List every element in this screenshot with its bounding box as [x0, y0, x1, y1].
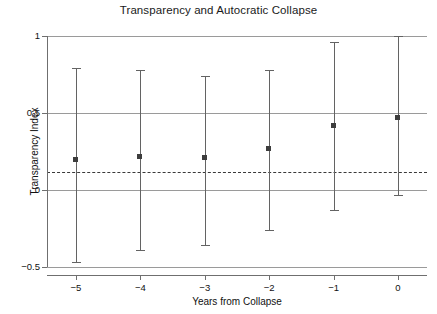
- errorbar-cap-lower: [330, 210, 339, 211]
- y-axis-tick-label: 0.5: [0, 107, 40, 119]
- y-axis-tick-mark: [42, 36, 47, 37]
- gridline-y: [47, 36, 427, 37]
- y-axis-tick-label: −0.5: [0, 261, 40, 273]
- data-point-marker: [266, 146, 271, 151]
- chart-title: Transparency and Autocratic Collapse: [0, 4, 437, 16]
- gridline-y: [47, 190, 427, 191]
- data-point-marker: [137, 154, 142, 159]
- x-axis-tick-mark: [76, 275, 77, 280]
- x-axis-tick-mark: [334, 275, 335, 280]
- errorbar-group: [67, 36, 85, 267]
- x-axis-tick-label: −3: [185, 282, 225, 293]
- errorbar-cap-upper: [201, 76, 210, 77]
- errorbar-cap-lower: [394, 195, 403, 196]
- y-axis-tick-label-text: −0.5: [2, 261, 40, 272]
- errorbar-group: [196, 36, 214, 267]
- errorbar-cap-upper: [265, 70, 274, 71]
- x-axis-tick-label: −4: [120, 282, 160, 293]
- errorbar-cap-upper: [72, 68, 81, 69]
- y-axis-tick-label: 1: [0, 30, 40, 42]
- data-point-marker: [395, 115, 400, 120]
- x-axis-label: Years from Collapse: [47, 296, 427, 307]
- y-axis-label-container: Transparency Index: [14, 36, 26, 267]
- plot-area: [47, 36, 427, 267]
- errorbar-whisker: [205, 76, 206, 245]
- x-axis-tick-mark: [205, 275, 206, 280]
- errorbar-cap-lower: [136, 250, 145, 251]
- x-axis-spine: [47, 275, 427, 276]
- y-axis-tick-mark: [42, 267, 47, 268]
- y-axis-spine: [47, 36, 48, 267]
- x-axis-tick-mark: [269, 275, 270, 280]
- x-axis-tick-mark: [140, 275, 141, 280]
- gridline-y: [47, 113, 427, 114]
- data-point-marker: [73, 157, 78, 162]
- data-point-marker: [331, 123, 336, 128]
- chart-figure: Transparency and Autocratic Collapse Tra…: [0, 0, 437, 314]
- y-axis-tick-label-text: 0: [2, 184, 40, 195]
- x-axis-tick-label: −1: [314, 282, 354, 293]
- errorbar-group: [325, 36, 343, 267]
- errorbar-cap-upper: [394, 36, 403, 37]
- y-axis-tick-mark: [42, 113, 47, 114]
- x-axis-tick-label: −5: [56, 282, 96, 293]
- errorbar-group: [260, 36, 278, 267]
- errorbar-whisker: [140, 70, 141, 250]
- errorbar-cap-lower: [72, 262, 81, 263]
- x-axis-tick-mark: [398, 275, 399, 280]
- reference-line: [47, 172, 427, 173]
- errorbar-group: [389, 36, 407, 267]
- y-axis-tick-label: 0: [0, 184, 40, 196]
- data-point-marker: [202, 155, 207, 160]
- x-axis-tick-label: 0: [378, 282, 418, 293]
- y-axis-tick-mark: [42, 190, 47, 191]
- errorbar-cap-lower: [201, 245, 210, 246]
- x-axis-tick-label: −2: [249, 282, 289, 293]
- errorbar-cap-upper: [136, 70, 145, 71]
- errorbar-cap-lower: [265, 230, 274, 231]
- errorbar-cap-upper: [330, 42, 339, 43]
- errorbar-whisker: [76, 68, 77, 262]
- errorbar-group: [131, 36, 149, 267]
- y-axis-tick-label-text: 0.5: [2, 107, 40, 118]
- y-axis-tick-label-text: 1: [2, 30, 40, 41]
- gridline-y: [47, 267, 427, 268]
- y-axis-label: Transparency Index: [29, 57, 40, 247]
